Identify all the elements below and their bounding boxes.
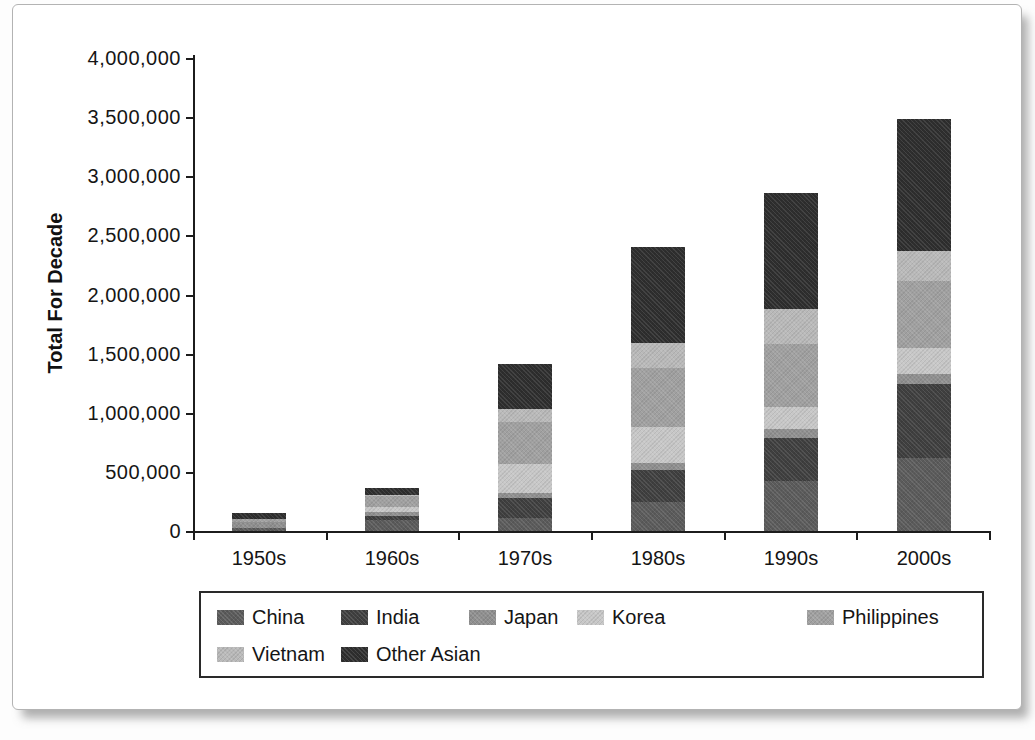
legend-swatch-vietnam	[217, 647, 244, 662]
bar-segment-korea-1990s	[764, 407, 818, 429]
y-tick-mark-4-000-000	[186, 58, 194, 60]
bar-segment-vietnam-2000s	[897, 251, 951, 281]
x-tick-mark-2	[458, 533, 460, 540]
bar-segment-other-asian-1990s	[764, 193, 818, 309]
y-tick-mark-2-500-000	[186, 235, 194, 237]
bar-segment-korea-1980s	[631, 427, 685, 463]
bar-segment-japan-1960s	[365, 512, 419, 516]
y-tick-mark-1-000-000	[186, 413, 194, 415]
x-tick-label-2000s: 2000s	[864, 547, 984, 570]
y-tick-label-500-000: 500,000	[31, 461, 181, 484]
legend-swatch-korea	[577, 610, 604, 625]
bar-segment-other-asian-1980s	[631, 247, 685, 343]
legend-swatch-philippines	[807, 610, 834, 625]
bar-segment-japan-1990s	[764, 429, 818, 438]
bar-segment-other-asian-2000s	[897, 119, 951, 251]
bar-segment-other-asian-1960s	[365, 488, 419, 495]
x-tick-label-1950s: 1950s	[199, 547, 319, 570]
bar-segment-philippines-2000s	[897, 281, 951, 348]
legend-label-philippines: Philippines	[842, 606, 939, 629]
legend-label-japan: Japan	[504, 606, 559, 629]
y-tick-mark-3-000-000	[186, 176, 194, 178]
x-tick-mark-4	[724, 533, 726, 540]
bar-segment-vietnam-1990s	[764, 309, 818, 344]
legend-swatch-other-asian	[341, 647, 368, 662]
legend-label-india: India	[376, 606, 419, 629]
bar-segment-india-2000s	[897, 384, 951, 458]
bar-segment-other-asian-1950s	[232, 513, 286, 519]
bar-segment-china-1970s	[498, 518, 552, 531]
y-tick-label-3-000-000: 3,000,000	[31, 165, 181, 188]
bar-segment-india-1990s	[764, 438, 818, 481]
bar-segment-china-1960s	[365, 520, 419, 531]
bar-segment-other-asian-1970s	[498, 364, 552, 409]
legend-swatch-china	[217, 610, 244, 625]
bar-segment-philippines-1950s	[232, 519, 286, 522]
y-tick-mark-2-000-000	[186, 295, 194, 297]
x-tick-label-1960s: 1960s	[332, 547, 452, 570]
x-tick-mark-0	[193, 533, 195, 540]
x-tick-mark-3	[591, 533, 593, 540]
y-tick-label-1-000-000: 1,000,000	[31, 402, 181, 425]
legend-label-china: China	[252, 606, 304, 629]
chart-legend: ChinaIndiaJapanKoreaPhilippinesVietnamOt…	[199, 591, 984, 678]
y-tick-label-2-500-000: 2,500,000	[31, 224, 181, 247]
bar-segment-china-1990s	[764, 481, 818, 531]
legend-label-vietnam: Vietnam	[252, 643, 325, 666]
x-tick-label-1990s: 1990s	[731, 547, 851, 570]
figure-card: Total For Decade 0500,0001,000,0001,500,…	[12, 4, 1022, 710]
y-tick-mark-3-500-000	[186, 117, 194, 119]
x-tick-label-1980s: 1980s	[598, 547, 718, 570]
bar-segment-philippines-1960s	[365, 496, 419, 507]
bar-segment-china-1950s	[232, 528, 286, 531]
y-tick-label-1-500-000: 1,500,000	[31, 343, 181, 366]
bar-segment-philippines-1970s	[498, 422, 552, 464]
legend-swatch-japan	[469, 610, 496, 625]
bar-segment-japan-1950s	[232, 522, 286, 528]
legend-label-other-asian: Other Asian	[376, 643, 481, 666]
y-tick-mark-1-500-000	[186, 354, 194, 356]
bar-segment-china-1980s	[631, 502, 685, 531]
bar-segment-korea-1970s	[498, 464, 552, 493]
y-tick-label-2-000-000: 2,000,000	[31, 284, 181, 307]
y-tick-label-4-000-000: 4,000,000	[31, 47, 181, 70]
x-tick-mark-6	[989, 533, 991, 540]
bar-segment-india-1960s	[365, 516, 419, 520]
bar-segment-korea-1960s	[365, 507, 419, 512]
bar-segment-korea-2000s	[897, 348, 951, 374]
bar-segment-vietnam-1960s	[365, 495, 419, 496]
bar-segment-japan-1980s	[631, 463, 685, 470]
bar-segment-china-2000s	[897, 458, 951, 531]
bar-segment-philippines-1990s	[764, 344, 818, 407]
x-tick-mark-5	[856, 533, 858, 540]
legend-label-korea: Korea	[612, 606, 665, 629]
bar-segment-japan-1970s	[498, 493, 552, 498]
y-tick-mark-500-000	[186, 472, 194, 474]
bar-segment-india-1980s	[631, 470, 685, 502]
bar-segment-india-1970s	[498, 498, 552, 518]
y-tick-label-0: 0	[31, 520, 181, 543]
bar-segment-vietnam-1980s	[631, 343, 685, 368]
bar-segment-vietnam-1970s	[498, 409, 552, 422]
y-tick-label-3-500-000: 3,500,000	[31, 106, 181, 129]
legend-swatch-india	[341, 610, 368, 625]
stacked-bar-chart: Total For Decade 0500,0001,000,0001,500,…	[13, 5, 1023, 711]
x-tick-label-1970s: 1970s	[465, 547, 585, 570]
bar-segment-japan-2000s	[897, 374, 951, 384]
x-tick-mark-1	[326, 533, 328, 540]
bar-segment-philippines-1980s	[631, 368, 685, 427]
